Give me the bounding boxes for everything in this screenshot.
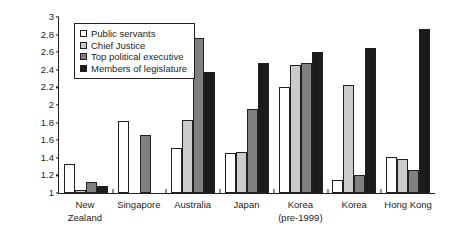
x-axis-category-name: Hong Kong: [384, 199, 432, 210]
chart-legend: Public servantsChief JusticeTop politica…: [74, 23, 195, 79]
y-axis-tick-mark: [56, 192, 60, 193]
y-axis-tick-mark: [56, 122, 60, 123]
x-axis-tick-mark: [112, 189, 113, 193]
bar: [236, 152, 247, 193]
bar: [182, 120, 193, 193]
x-axis-tick-mark: [166, 189, 167, 193]
y-axis-tick-mark: [56, 104, 60, 105]
y-axis-tick-mark: [56, 34, 60, 35]
x-axis-tick-mark: [327, 189, 328, 193]
y-axis-tick-mark: [56, 175, 60, 176]
bar: [225, 153, 236, 193]
legend-swatch-icon: [80, 53, 87, 60]
legend-label: Public servants: [91, 28, 155, 40]
legend-swatch-icon: [80, 65, 87, 72]
legend-label: Chief Justice: [91, 40, 145, 52]
x-axis-category-name: Japan: [234, 199, 260, 210]
legend-label: Top political executive: [91, 51, 183, 63]
y-axis-tick-mark: [56, 69, 60, 70]
bar: [301, 63, 312, 193]
x-axis-category-name: Australia: [174, 199, 211, 210]
legend-swatch-icon: [80, 30, 87, 37]
bar-group: [328, 17, 382, 193]
bar: [204, 72, 215, 193]
y-axis-tick-mark: [56, 52, 60, 53]
x-axis-category-name: Korea: [288, 199, 313, 210]
x-axis-tick-mark: [220, 189, 221, 193]
bar: [140, 135, 151, 193]
x-axis-category-label: Australia: [166, 196, 220, 236]
bar: [419, 29, 430, 193]
bar: [64, 164, 75, 193]
bar: [386, 157, 397, 193]
bar-group: [381, 17, 435, 193]
x-axis-tick-mark: [273, 189, 274, 193]
y-axis-tick-mark: [56, 140, 60, 141]
legend-item: Chief Justice: [80, 40, 187, 52]
x-axis-category-sublabel: (pre-1999): [273, 211, 327, 224]
legend-item: Public servants: [80, 28, 187, 40]
x-axis-labels: New ZealandSingaporeAustraliaJapanKorea(…: [58, 196, 435, 236]
bar: [247, 109, 258, 193]
x-axis-category-label: New Zealand: [58, 196, 112, 236]
y-axis-tick-mark: [56, 157, 60, 158]
legend-swatch-icon: [80, 42, 87, 49]
legend-item: Members of legislature: [80, 63, 187, 75]
x-axis-category-name: New Zealand: [68, 199, 102, 223]
bar: [365, 48, 376, 193]
y-axis-tick-mark: [56, 16, 60, 17]
bar-group: [274, 17, 328, 193]
x-axis-category-label: Korea(pre-1999): [273, 196, 327, 236]
bar: [343, 85, 354, 193]
x-axis-category-label: Singapore: [112, 196, 166, 236]
bar: [290, 65, 301, 193]
bar: [118, 121, 129, 193]
bar: [258, 63, 269, 193]
bar: [171, 148, 182, 193]
legend-label: Members of legislature: [91, 63, 187, 75]
bar: [75, 190, 86, 193]
x-axis-category-name: Singapore: [117, 199, 160, 210]
bar: [312, 52, 323, 193]
x-axis-tick-mark: [381, 189, 382, 193]
x-axis-category-label: Japan: [220, 196, 274, 236]
x-axis-category-label: Hong Kong: [381, 196, 435, 236]
y-axis-tick-mark: [56, 87, 60, 88]
bar-group: [220, 17, 274, 193]
x-axis-category-label: Korea: [327, 196, 381, 236]
bar-chart: Total pay divided by base pay 32.82.62.4…: [0, 0, 449, 240]
bar: [97, 186, 108, 193]
bar: [332, 180, 343, 193]
legend-item: Top political executive: [80, 51, 187, 63]
bar: [279, 87, 290, 193]
bar: [397, 159, 408, 193]
bar: [354, 175, 365, 193]
bar: [86, 182, 97, 193]
bar: [408, 170, 419, 193]
x-axis-category-name: Korea: [342, 199, 367, 210]
